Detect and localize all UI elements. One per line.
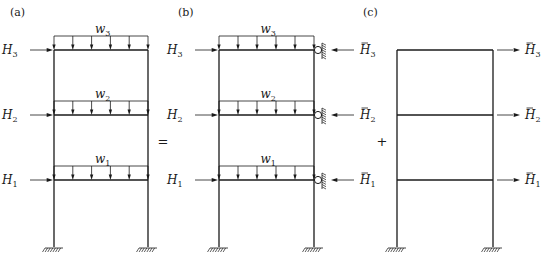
force-label-Hbar1: H1	[359, 173, 376, 189]
hatch-mark	[393, 248, 396, 252]
hatch-mark	[318, 248, 321, 252]
distributed-load-w2: w2	[52, 87, 149, 115]
distributed-load-w2: w2	[217, 87, 315, 115]
arrowhead-icon	[128, 110, 131, 115]
hatch-mark	[391, 248, 394, 252]
arrowhead-icon	[212, 48, 218, 52]
hatch-mark	[223, 248, 226, 252]
hatch-mark	[322, 173, 326, 175]
arrowhead-icon	[514, 113, 520, 117]
hatch-mark	[396, 248, 399, 252]
reaction-force-Hbar3: H3	[331, 43, 376, 59]
hatch-mark	[489, 248, 492, 252]
force-label-H3: H3	[1, 43, 18, 59]
hatch-mark	[322, 115, 326, 117]
arrowhead-icon	[71, 175, 74, 180]
hatch-mark	[305, 248, 308, 252]
hatch-mark	[139, 248, 142, 252]
arrowhead-icon	[274, 175, 277, 180]
roller-icon	[314, 176, 321, 183]
arrowhead-icon	[146, 110, 149, 115]
panel-c: (c)H1H2H3	[363, 6, 541, 252]
reaction-force-Hbar2: H2	[331, 108, 376, 124]
roller-support-icon	[314, 43, 326, 59]
panel-label: (c)	[363, 6, 378, 19]
force-label-H2: H2	[1, 108, 18, 124]
hatch-mark	[399, 248, 402, 252]
arrowhead-icon	[331, 178, 337, 182]
fixed-support-icon	[386, 248, 407, 252]
load-label-w1: w1	[261, 152, 276, 168]
hatch-mark	[221, 248, 224, 252]
hatch-mark	[150, 248, 153, 252]
load-label-w2: w2	[261, 87, 276, 103]
distributed-load-w1: w1	[52, 152, 149, 180]
arrowhead-icon	[90, 175, 93, 180]
arrowhead-icon	[331, 48, 337, 52]
hatch-mark	[497, 248, 500, 252]
frame-superposition-diagram: (a)w1w2w3H1H2H3(b)w1w2w3H1H2H3H1H2H3(c)H…	[0, 0, 549, 264]
force-label-Hbar3: H3	[359, 43, 376, 59]
arrowhead-icon	[71, 45, 74, 50]
panel-a: (a)w1w2w3H1H2H3	[1, 6, 157, 252]
arrowhead-icon	[52, 110, 55, 115]
hatch-mark	[58, 248, 61, 252]
hatch-mark	[152, 248, 155, 252]
arrowhead-icon	[109, 110, 112, 115]
roller-support-icon	[314, 173, 326, 189]
hatch-mark	[322, 122, 326, 124]
arrowhead-icon	[514, 48, 520, 52]
arrowhead-icon	[331, 113, 337, 117]
hatch-mark	[144, 248, 147, 252]
lateral-force-H3: H3	[166, 43, 218, 59]
arrowhead-icon	[236, 110, 239, 115]
load-label-w3: w3	[95, 22, 110, 38]
lateral-force-H1: H1	[1, 173, 53, 189]
arrowhead-icon	[274, 110, 277, 115]
fixed-support-icon	[137, 248, 158, 252]
hatch-mark	[322, 187, 326, 189]
panel-b: (b)w1w2w3H1H2H3H1H2H3	[166, 6, 376, 252]
hatch-mark	[322, 52, 326, 54]
distributed-load-w1: w1	[217, 152, 315, 180]
hatch-mark	[208, 248, 211, 252]
reaction-force-Hbar1: H1	[497, 173, 541, 189]
hatch-mark	[495, 248, 498, 252]
arrowhead-icon	[128, 45, 131, 50]
lateral-force-H1: H1	[166, 173, 218, 189]
hatch-mark	[48, 248, 51, 252]
hatch-mark	[322, 108, 326, 110]
arrowhead-icon	[274, 45, 277, 50]
roller-icon	[314, 46, 321, 53]
panel-label: (a)	[10, 6, 25, 19]
hatch-mark	[322, 113, 326, 115]
force-label-Hbar2: H2	[359, 108, 376, 124]
hatch-mark	[401, 248, 404, 252]
arrowhead-icon	[217, 175, 220, 180]
reaction-force-Hbar2: H2	[497, 108, 541, 124]
arrowhead-icon	[109, 45, 112, 50]
distributed-load-w3: w3	[217, 22, 315, 50]
hatch-mark	[322, 43, 326, 45]
fixed-support-icon	[303, 248, 324, 252]
hatch-mark	[322, 175, 326, 177]
arrowhead-icon	[109, 175, 112, 180]
load-label-w1: w1	[95, 152, 110, 168]
arrowhead-icon	[236, 175, 239, 180]
hatch-mark	[322, 50, 326, 52]
force-label-Hbar2: H2	[524, 108, 541, 124]
fixed-support-icon	[208, 248, 229, 252]
hatch-mark	[322, 48, 326, 50]
hatch-mark	[56, 248, 59, 252]
hatch-mark	[322, 55, 326, 57]
reaction-force-Hbar1: H1	[331, 173, 376, 189]
arrowhead-icon	[236, 45, 239, 50]
force-label-Hbar1: H1	[524, 173, 541, 189]
arrowhead-icon	[212, 178, 218, 182]
arrowhead-icon	[128, 175, 131, 180]
arrowhead-icon	[146, 45, 149, 50]
hatch-mark	[322, 45, 326, 47]
load-label-w3: w3	[261, 22, 276, 38]
arrowhead-icon	[71, 110, 74, 115]
reaction-force-Hbar3: H3	[497, 43, 541, 59]
